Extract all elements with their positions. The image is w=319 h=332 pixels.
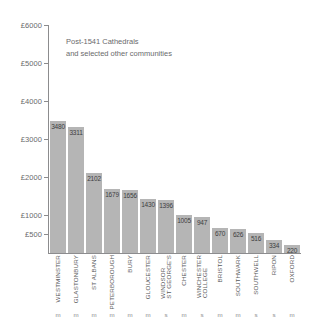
category-label-cell: CHESTER [175, 255, 193, 307]
bar-value-label: 670 [211, 230, 229, 238]
bar-value-label: 220 [283, 247, 301, 255]
bar-rect [85, 173, 103, 253]
category-label-cell: ST ALBANS [85, 255, 103, 307]
category-label-cell: SOUTHWARK [229, 255, 247, 307]
bar-value-label: 1679 [103, 191, 121, 199]
y-axis-tick-label: £3000 [21, 135, 42, 144]
category-label-line: RIPON [271, 255, 278, 275]
bar-bury[interactable]: 1656 [121, 190, 139, 253]
house-type-marker: m [283, 311, 301, 318]
house-type-marker: s [157, 311, 175, 318]
house-type-marker: s [247, 311, 265, 318]
category-label-cell: BRISTOL [211, 255, 229, 307]
house-type-marker: m [49, 311, 67, 318]
bar-value-label: 3311 [67, 129, 85, 137]
bar-value-label: 1396 [157, 202, 175, 210]
y-axis-tick-label: £5000 [21, 59, 42, 68]
category-label-cell: WINCHESTERCOLLEGE [193, 255, 211, 307]
category-label: WINCHESTERCOLLEGE [196, 255, 209, 298]
house-type-marker: m [175, 311, 193, 318]
y-axis-tick-label: £500 [25, 230, 42, 239]
bar-value-label: 3480 [49, 123, 67, 131]
bar-chart: £6000£5000£4000£3000£2000£1000£500 Post-… [0, 0, 319, 332]
bar-glastonbury[interactable]: 3311 [67, 127, 85, 253]
bar-value-label: 947 [193, 219, 211, 227]
category-label-cell: PETERBOROUGH [103, 255, 121, 307]
category-label: GLASTONBURY [73, 255, 80, 303]
category-label: PETERBOROUGH [109, 255, 116, 309]
category-label-line: GLOUCESTER [145, 255, 152, 299]
y-axis-tick-mark [44, 177, 48, 178]
category-label: WINDSORST GEORGE'S [160, 255, 173, 299]
category-label-cell: GLASTONBURY [67, 255, 85, 307]
house-type-marker: m [85, 311, 103, 318]
bar-peterborough[interactable]: 1679 [103, 189, 121, 253]
house-type-marker: m [67, 311, 85, 318]
house-type-marker: m [139, 311, 157, 318]
y-axis-tick-mark [44, 215, 48, 216]
category-label-line: ST GEORGE'S [166, 255, 172, 299]
category-label-line: SOUTHWARK [235, 255, 242, 296]
category-label-cell: SOUTHWELL [247, 255, 265, 307]
house-type-marker: s [265, 311, 283, 318]
category-label: GLOUCESTER [145, 255, 152, 299]
bar-southwark[interactable]: 626 [229, 229, 247, 253]
bar-rect [67, 127, 85, 253]
category-label: SOUTHWARK [235, 255, 242, 296]
bar-value-label: 1430 [139, 201, 157, 209]
category-label: RIPON [271, 255, 278, 275]
bar-ripon[interactable]: 334 [265, 240, 283, 253]
category-label: SOUTHWELL [253, 255, 260, 295]
bar-value-label: 334 [265, 242, 283, 250]
y-axis-tick-label: £1000 [21, 211, 42, 220]
y-axis-tick-mark [44, 234, 48, 235]
bar-bristol[interactable]: 670 [211, 228, 229, 253]
category-label-cell: RIPON [265, 255, 283, 307]
category-label-cell: WESTMINSTER [49, 255, 67, 307]
bar-chester[interactable]: 1005 [175, 215, 193, 253]
category-labels-container: WESTMINSTERGLASTONBURYST ALBANSPETERBORO… [49, 255, 301, 307]
y-axis-tick-mark [44, 63, 48, 64]
bars-container: 3480331121021679165614301396100594767062… [49, 25, 301, 253]
category-label-line: SOUTHWELL [253, 255, 260, 295]
category-label-line: GLASTONBURY [73, 255, 80, 303]
category-label: BRISTOL [217, 255, 224, 282]
bar-oxford[interactable]: 220 [283, 245, 301, 253]
bar-westminster[interactable]: 3480 [49, 121, 67, 253]
category-label: WESTMINSTER [55, 255, 62, 302]
y-axis-tick-label: £2000 [21, 173, 42, 182]
bar-windsor-st-george-s[interactable]: 1396 [157, 200, 175, 253]
category-label-cell: WINDSORST GEORGE'S [157, 255, 175, 307]
y-axis-tick-mark [44, 139, 48, 140]
bar-st-albans[interactable]: 2102 [85, 173, 103, 253]
house-type-marker: m [121, 311, 139, 318]
y-axis-tick-mark [44, 101, 48, 102]
bar-value-label: 626 [229, 231, 247, 239]
house-type-marker-row: mmmmmmsmsmmssm [49, 311, 301, 323]
bar-value-label: 1656 [121, 192, 139, 200]
bar-winchester-college[interactable]: 947 [193, 217, 211, 253]
category-label-line: COLLEGE [202, 255, 208, 298]
category-label-cell: GLOUCESTER [139, 255, 157, 307]
category-label-line: BRISTOL [217, 255, 224, 282]
bar-rect [49, 121, 67, 253]
category-label-line: WESTMINSTER [55, 255, 62, 302]
category-label-line: ST ALBANS [91, 255, 98, 290]
bar-gloucester[interactable]: 1430 [139, 199, 157, 253]
category-label: CHESTER [181, 255, 188, 286]
bar-southwell[interactable]: 516 [247, 233, 265, 253]
house-type-marker: m [229, 311, 247, 318]
category-label-line: BURY [127, 255, 134, 273]
x-axis-line [48, 253, 301, 254]
bar-value-label: 2102 [85, 175, 103, 183]
category-label: OXFORD [289, 255, 296, 282]
category-label-line: PETERBOROUGH [109, 255, 116, 309]
y-axis-tick-label: £4000 [21, 97, 42, 106]
house-type-marker: m [103, 311, 121, 318]
bar-value-label: 1005 [175, 217, 193, 225]
y-axis-tick-mark [44, 25, 48, 26]
house-type-marker: s [193, 311, 211, 318]
bar-value-label: 516 [247, 235, 265, 243]
house-type-marker: m [211, 311, 229, 318]
y-axis-tick-label: £6000 [21, 21, 42, 30]
